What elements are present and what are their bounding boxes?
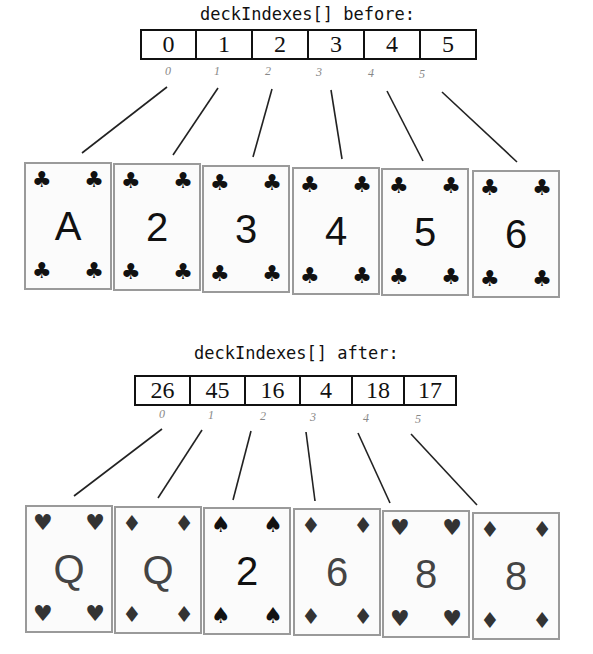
heart-icon: ♥ xyxy=(442,517,462,539)
card-queen-hearts: ♥ ♥ Q ♥ ♥ xyxy=(25,505,113,633)
card-rank: 3 xyxy=(204,201,288,257)
club-icon: ♣ xyxy=(121,261,141,283)
array-cell: 16 xyxy=(246,377,301,404)
club-icon: ♣ xyxy=(480,268,500,290)
array-index: 0 xyxy=(152,407,172,422)
club-icon: ♣ xyxy=(32,169,52,191)
card-3-clubs: ♣ ♣ 3 ♣ ♣ xyxy=(202,165,290,293)
club-icon: ♣ xyxy=(389,175,409,197)
card-8-hearts: ♥ ♥ 8 ♥ ♥ xyxy=(382,510,470,638)
spade-icon: ♠ xyxy=(263,514,283,536)
club-icon: ♣ xyxy=(441,175,461,197)
club-icon: ♣ xyxy=(262,263,282,285)
spade-icon: ♠ xyxy=(211,514,231,536)
array-index: 4 xyxy=(356,411,376,426)
club-icon: ♣ xyxy=(84,260,104,282)
heart-icon: ♥ xyxy=(390,517,410,539)
club-icon: ♣ xyxy=(32,260,52,282)
club-icon: ♣ xyxy=(173,170,193,192)
diamond-icon: ♦ xyxy=(301,606,321,628)
card-rank: 2 xyxy=(115,199,199,255)
diamond-icon: ♦ xyxy=(353,515,373,537)
club-icon: ♣ xyxy=(480,177,500,199)
card-4-clubs: ♣ ♣ 4 ♣ ♣ xyxy=(292,167,380,295)
diamond-icon: ♦ xyxy=(353,606,373,628)
heart-icon: ♥ xyxy=(33,603,53,625)
card-rank: 5 xyxy=(383,204,467,260)
diamond-icon: ♦ xyxy=(301,515,321,537)
card-rank: 8 xyxy=(384,546,468,602)
array-index: 2 xyxy=(253,409,273,424)
diamond-icon: ♦ xyxy=(122,513,142,535)
club-icon: ♣ xyxy=(352,174,372,196)
club-icon: ♣ xyxy=(532,177,552,199)
card-5-clubs: ♣ ♣ 5 ♣ ♣ xyxy=(381,168,469,296)
array-cell: 26 xyxy=(136,377,191,404)
diamond-icon: ♦ xyxy=(532,610,552,632)
after-title: deckIndexes[] after: xyxy=(194,343,399,363)
heart-icon: ♥ xyxy=(33,512,53,534)
card-8-diamonds: ♦ ♦ 8 ♦ ♦ xyxy=(472,512,560,640)
club-icon: ♣ xyxy=(300,174,320,196)
club-icon: ♣ xyxy=(441,266,461,288)
card-2-spades: ♠ ♠ 2 ♠ ♠ xyxy=(203,507,291,635)
club-icon: ♣ xyxy=(173,261,193,283)
club-icon: ♣ xyxy=(121,170,141,192)
card-rank: 2 xyxy=(205,543,289,599)
diamond-icon: ♦ xyxy=(480,610,500,632)
club-icon: ♣ xyxy=(300,265,320,287)
array-cell: 18 xyxy=(353,377,405,404)
heart-icon: ♥ xyxy=(390,608,410,630)
club-icon: ♣ xyxy=(352,265,372,287)
club-icon: ♣ xyxy=(532,268,552,290)
array-index: 1 xyxy=(201,408,221,423)
array-cell: 45 xyxy=(191,377,246,404)
heart-icon: ♥ xyxy=(85,603,105,625)
card-rank: 4 xyxy=(294,203,378,259)
card-6-diamonds: ♦ ♦ 6 ♦ ♦ xyxy=(293,508,381,636)
club-icon: ♣ xyxy=(389,266,409,288)
card-rank: Q xyxy=(116,542,200,598)
card-rank: A xyxy=(26,198,110,254)
after-array: 26 45 16 4 18 17 xyxy=(134,375,457,406)
diamond-icon: ♦ xyxy=(532,519,552,541)
card-2-clubs: ♣ ♣ 2 ♣ ♣ xyxy=(113,163,201,291)
spade-icon: ♠ xyxy=(211,605,231,627)
card-rank: 8 xyxy=(474,548,558,604)
club-icon: ♣ xyxy=(210,263,230,285)
heart-icon: ♥ xyxy=(85,512,105,534)
club-icon: ♣ xyxy=(210,172,230,194)
club-icon: ♣ xyxy=(262,172,282,194)
diamond-icon: ♦ xyxy=(174,513,194,535)
array-cell: 17 xyxy=(405,377,455,404)
card-6-clubs: ♣ ♣ 6 ♣ ♣ xyxy=(472,170,560,298)
card-ace-clubs: ♣ ♣ A ♣ ♣ xyxy=(24,162,112,290)
card-rank: 6 xyxy=(295,544,379,600)
array-index: 5 xyxy=(408,412,428,427)
diamond-icon: ♦ xyxy=(174,604,194,626)
card-rank: Q xyxy=(27,541,111,597)
diamond-icon: ♦ xyxy=(480,519,500,541)
array-cell: 4 xyxy=(301,377,353,404)
diamond-icon: ♦ xyxy=(122,604,142,626)
club-icon: ♣ xyxy=(84,169,104,191)
array-index: 3 xyxy=(303,410,323,425)
spade-icon: ♠ xyxy=(263,605,283,627)
card-rank: 6 xyxy=(474,206,558,262)
heart-icon: ♥ xyxy=(442,608,462,630)
card-queen-diamonds: ♦ ♦ Q ♦ ♦ xyxy=(114,506,202,634)
